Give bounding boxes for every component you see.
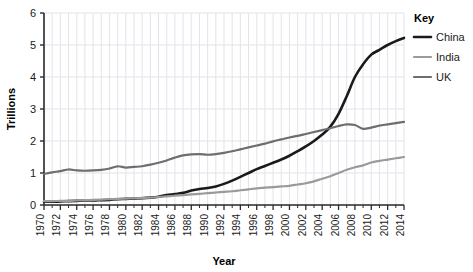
x-tick-label: 2008 (346, 214, 357, 237)
y-tick-label: 0 (30, 199, 36, 211)
x-tick-label: 1982 (133, 214, 144, 237)
chart-screenshot: 0123456 19701972197419761978198019821984… (0, 0, 473, 272)
legend-label-india: India (436, 51, 461, 63)
x-tick-label: 2000 (280, 214, 291, 237)
x-tick-label: 1998 (264, 214, 275, 237)
y-tick-label: 2 (30, 135, 36, 147)
x-tick-label: 1990 (199, 214, 210, 237)
y-tick-label: 1 (30, 167, 36, 179)
x-tick-label: 1986 (166, 214, 177, 237)
x-tick-label: 1976 (84, 214, 95, 237)
x-tick-label: 2004 (313, 214, 324, 237)
y-tick-label: 3 (30, 103, 36, 115)
x-tick-label: 1992 (215, 214, 226, 237)
legend-label-uk: UK (436, 71, 452, 83)
x-tick-label: 2006 (330, 214, 341, 237)
x-tick-label: 1996 (248, 214, 259, 237)
y-tick-label: 4 (30, 71, 36, 83)
line-chart: 0123456 19701972197419761978198019821984… (0, 0, 473, 272)
x-tick-label: 1972 (51, 214, 62, 237)
x-tick-label: 1978 (100, 214, 111, 237)
x-axis-title: Year (212, 255, 236, 267)
x-tick-label: 1994 (231, 214, 242, 237)
x-tick-label: 2012 (379, 214, 390, 237)
legend-label-china: China (436, 31, 466, 43)
y-tick-label: 5 (30, 39, 36, 51)
x-tick-label: 1988 (182, 214, 193, 237)
x-tick-label: 1970 (35, 214, 46, 237)
x-tick-label: 1980 (117, 214, 128, 237)
x-tick-label: 2010 (362, 214, 373, 237)
x-tick-label: 2002 (297, 214, 308, 237)
x-tick-label: 2014 (395, 214, 406, 237)
x-tick-label: 1984 (150, 214, 161, 237)
y-axis-title: Trillions (5, 88, 17, 130)
legend-title: Key (414, 12, 435, 24)
y-tick-label: 6 (30, 7, 36, 19)
x-tick-label: 1974 (68, 214, 79, 237)
